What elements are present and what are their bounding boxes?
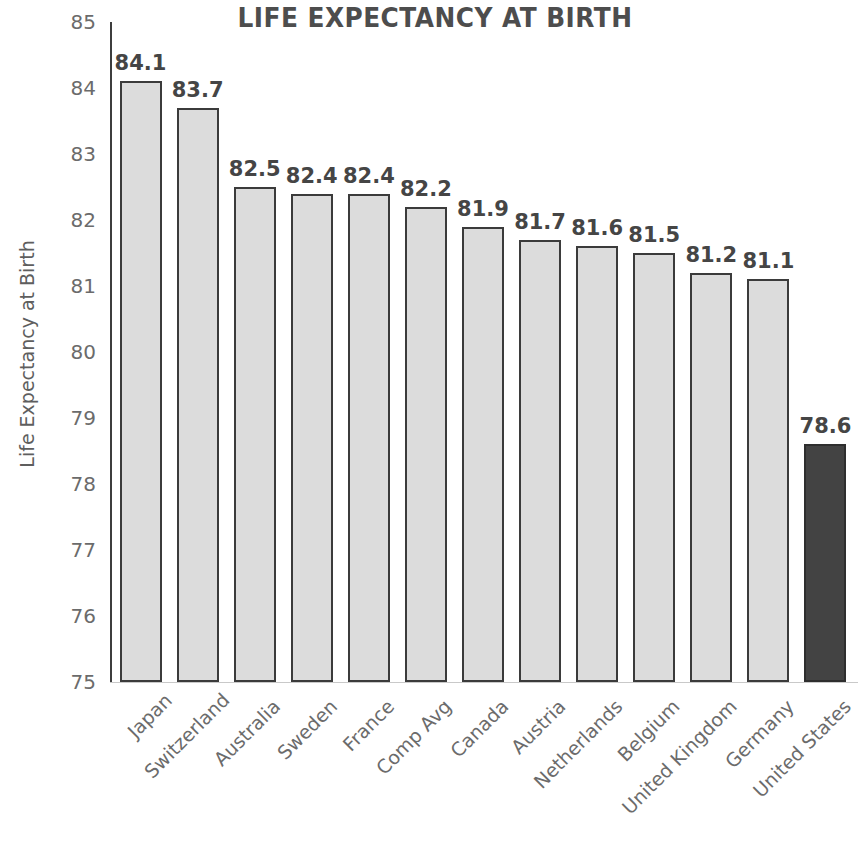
y-axis-tick-labels: 8584838281807978777675 [36,22,96,682]
plot-area: 84.183.782.582.482.482.281.981.781.681.5… [110,22,852,682]
bar-group: 81.7 [519,22,561,682]
bar[interactable] [462,227,504,682]
bar[interactable] [690,273,732,682]
bar[interactable] [120,81,162,682]
bar-value-label: 84.1 [115,51,167,75]
bar[interactable] [576,246,618,682]
bar-value-label: 82.4 [343,164,395,188]
bar-group: 81.6 [576,22,618,682]
bar-group: 82.4 [348,22,390,682]
y-axis-tick-label: 76 [50,606,96,626]
bar[interactable] [177,108,219,682]
bar-value-label: 83.7 [172,78,224,102]
y-axis-title: Life Expectancy at Birth [16,204,38,504]
y-axis-tick-label: 82 [50,210,96,230]
y-axis-tick-label: 85 [50,12,96,32]
bar[interactable] [348,194,390,682]
bar-group: 81.1 [747,22,789,682]
bar-chart: LIFE EXPECTANCY AT BIRTH Life Expectancy… [0,0,864,843]
bar-value-label: 81.9 [457,197,509,221]
bar[interactable] [747,279,789,682]
bar-group: 84.1 [120,22,162,682]
bar-value-label: 82.2 [400,177,452,201]
bar-value-label: 81.7 [514,210,566,234]
y-axis-tick-label: 75 [50,672,96,692]
bar-group: 81.9 [462,22,504,682]
bar-group: 82.4 [291,22,333,682]
bar[interactable] [804,444,846,682]
y-axis-tick-label: 83 [50,144,96,164]
y-axis-tick-label: 84 [50,78,96,98]
bar-group: 81.5 [633,22,675,682]
bar-value-label: 78.6 [800,414,852,438]
bar-value-label: 81.1 [742,249,794,273]
bar[interactable] [405,207,447,682]
bar-value-label: 82.5 [229,157,281,181]
bar-group: 82.2 [405,22,447,682]
bar-group: 82.5 [234,22,276,682]
bar-group: 83.7 [177,22,219,682]
y-axis-tick-label: 81 [50,276,96,296]
bar[interactable] [234,187,276,682]
bar-value-label: 81.6 [571,216,623,240]
y-axis-tick-label: 80 [50,342,96,362]
bar-value-label: 81.2 [685,243,737,267]
x-axis-tick-label: Japan [123,695,170,742]
y-axis-tick-label: 79 [50,408,96,428]
x-axis-tick-labels: JapanSwitzerlandAustraliaSwedenFranceCom… [110,683,858,843]
bar-value-label: 82.4 [286,164,338,188]
bar-group: 81.2 [690,22,732,682]
bar-group: 78.6 [804,22,846,682]
bar[interactable] [633,253,675,682]
y-axis-tick-label: 77 [50,540,96,560]
x-axis-tick-label: Austria [240,695,570,843]
bar[interactable] [519,240,561,682]
bar-value-label: 81.5 [628,223,680,247]
y-axis-tick-label: 78 [50,474,96,494]
bar[interactable] [291,194,333,682]
